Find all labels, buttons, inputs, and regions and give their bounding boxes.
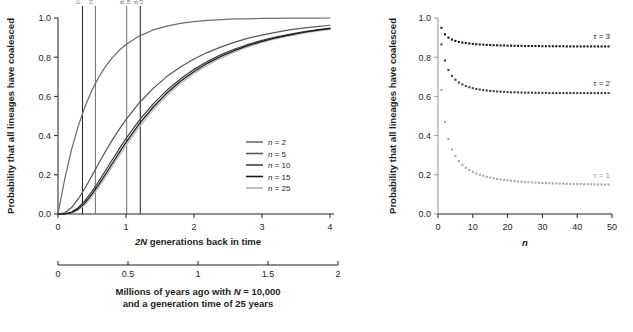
data-point	[545, 92, 547, 94]
left-xlabel-rest: generations back in time	[147, 236, 261, 247]
right-series-tau-3	[440, 27, 609, 48]
data-point	[510, 45, 512, 47]
data-point	[514, 45, 516, 47]
right-xlabel: n	[522, 237, 528, 248]
secondary-axis: 00.511.52Millions of years ago with N = …	[55, 261, 340, 309]
legend-label-0: n = 2	[268, 138, 287, 147]
data-point	[493, 44, 495, 46]
data-point	[458, 81, 460, 83]
data-point	[559, 183, 561, 185]
data-point	[566, 183, 568, 185]
data-point	[597, 183, 599, 185]
data-point	[597, 92, 599, 94]
data-point	[507, 91, 509, 93]
right-y-tick-label: 1.0	[418, 13, 431, 23]
right-series-label-3: τ = 3	[593, 32, 610, 41]
legend-label-value: = 2	[272, 138, 286, 147]
left-legend: n = 2n = 5n = 10n = 15n = 25	[246, 138, 291, 193]
data-point	[503, 44, 505, 46]
data-point	[569, 183, 571, 185]
event-label-0: Denisova/neanderthal	[75, 0, 81, 4]
data-point	[594, 45, 596, 47]
data-point	[500, 91, 502, 93]
data-point	[472, 43, 474, 45]
right-y-tick-label: 0.4	[418, 131, 431, 141]
data-point	[559, 45, 561, 47]
secondary-axis-tick-label: 1	[195, 269, 200, 279]
data-point	[573, 92, 575, 94]
data-point	[454, 79, 456, 81]
data-point	[520, 45, 522, 47]
secondary-axis-tick-label: 0	[55, 269, 60, 279]
left-y-tick-label: 0.0	[38, 209, 51, 219]
data-point	[566, 45, 568, 47]
data-point	[458, 160, 460, 162]
data-point	[447, 138, 449, 140]
legend-label-3: n = 15	[268, 173, 291, 182]
data-point	[447, 37, 449, 39]
right-ylabel: Probability that all lineages have coale…	[387, 18, 398, 214]
data-point	[507, 179, 509, 181]
data-point	[555, 45, 557, 47]
data-point	[451, 75, 453, 77]
data-point	[524, 181, 526, 183]
data-point	[507, 45, 509, 47]
data-point	[580, 45, 582, 47]
data-point	[482, 175, 484, 177]
data-point	[458, 41, 460, 43]
data-point	[475, 172, 477, 174]
data-point	[486, 44, 488, 46]
data-point	[607, 92, 609, 94]
data-point	[461, 83, 463, 85]
data-point	[534, 92, 536, 94]
data-point	[597, 45, 599, 47]
right-x-tick-label: 30	[537, 222, 547, 232]
data-point	[569, 45, 571, 47]
right-x-tick-label: 0	[435, 222, 440, 232]
data-point	[461, 41, 463, 43]
data-point	[566, 92, 568, 94]
data-point	[538, 92, 540, 94]
data-point	[500, 178, 502, 180]
data-point	[576, 183, 578, 185]
data-point	[590, 92, 592, 94]
caption-post: = 10,000	[241, 286, 281, 297]
right-series-tau-2	[440, 43, 609, 94]
data-point	[440, 43, 442, 45]
left-y-tick-label: 0.2	[38, 170, 51, 180]
data-point	[461, 164, 463, 166]
data-point	[531, 45, 533, 47]
data-point	[531, 92, 533, 94]
secondary-axis-tick-label: 2	[335, 269, 340, 279]
data-point	[468, 42, 470, 44]
data-point	[541, 45, 543, 47]
data-point	[590, 183, 592, 185]
data-point	[479, 43, 481, 45]
data-point	[541, 182, 543, 184]
data-point	[475, 43, 477, 45]
left-xlabel: 2N generations back in time	[134, 236, 261, 247]
data-point	[601, 45, 603, 47]
left-y-tick-label: 1.0	[38, 13, 51, 23]
data-point	[604, 184, 606, 186]
data-point	[451, 148, 453, 150]
data-point	[486, 89, 488, 91]
data-point	[489, 44, 491, 46]
left-ylabel-text: Probability that all lineages have coale…	[5, 18, 16, 214]
data-point	[524, 92, 526, 94]
data-point	[607, 184, 609, 186]
data-point	[520, 91, 522, 93]
data-point	[545, 182, 547, 184]
left-x-tick-label: 3	[259, 222, 264, 232]
data-point	[514, 91, 516, 93]
data-point	[587, 183, 589, 185]
data-point	[552, 182, 554, 184]
data-point	[493, 177, 495, 179]
data-point	[517, 180, 519, 182]
data-point	[486, 176, 488, 178]
left-x-tick-label: 0	[55, 222, 60, 232]
right-series-label-2: τ = 2	[593, 79, 610, 88]
data-point	[524, 45, 526, 47]
data-point	[573, 45, 575, 47]
right-y-tick-label: 0.8	[418, 53, 431, 63]
